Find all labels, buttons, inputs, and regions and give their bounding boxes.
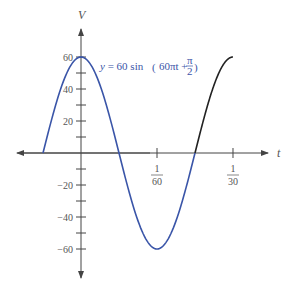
y-axis-label: V: [78, 8, 87, 22]
equation-close-paren: ): [194, 61, 198, 74]
sine-chart: 604020−20−40−60 160130 V t y = 60 sin ( …: [0, 0, 293, 291]
x-tick-numerator: 1: [230, 163, 235, 174]
x-tick-numerator: 1: [155, 163, 160, 174]
equation-arg: 60πt +: [159, 60, 188, 72]
equation-label: y = 60 sin ( 60πt + π 2 ): [99, 54, 198, 77]
y-tick-label: −20: [57, 180, 73, 191]
x-axis-label: t: [277, 146, 281, 160]
sine-curve-black: [195, 57, 233, 153]
y-tick-label: −60: [57, 244, 73, 255]
y-tick-label: 60: [63, 52, 73, 63]
svg-text:y = 60 sin: y = 60 sin: [99, 60, 144, 72]
equation-frac-den: 2: [187, 65, 193, 77]
x-tick-denominator: 30: [228, 176, 238, 187]
y-tick-label: 40: [63, 84, 73, 95]
x-tick-denominator: 60: [152, 176, 162, 187]
y-tick-label: −40: [57, 212, 73, 223]
equation-open-paren: (: [152, 61, 156, 74]
equation-eq: = 60 sin: [105, 60, 144, 72]
y-tick-label: 20: [63, 116, 73, 127]
